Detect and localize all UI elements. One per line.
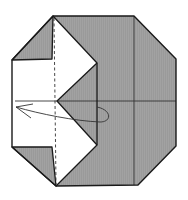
origami-diagram [0,0,188,200]
